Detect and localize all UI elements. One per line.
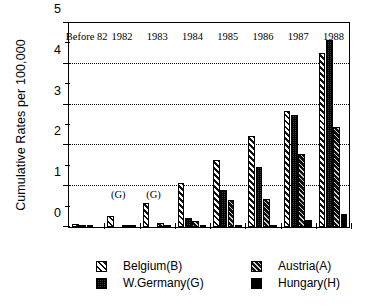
y-tick-label-4: 4 (54, 43, 61, 57)
y-tick-label-5: 5 (54, 2, 61, 16)
y-tick-label-0: 0 (54, 206, 61, 220)
bar-austria-1982 (122, 225, 129, 227)
x-tick-0 (104, 223, 105, 229)
annotation-missing-wgermany-1982: (G) (111, 189, 126, 200)
y-tick-0 (63, 226, 70, 227)
legend-swatch-austria (251, 261, 262, 272)
legend-label-hungary: Hungary(H) (278, 276, 348, 290)
chart-figure: Cumulative Rates per 100,000 012345 Befo… (0, 0, 380, 308)
annotation-missing-wgermany-1983: (G) (146, 189, 161, 200)
legend-swatch-hungary (251, 278, 262, 289)
bar-austria-1987 (298, 154, 305, 227)
y-axis-title: Cumulative Rates per 100,000 (14, 20, 28, 230)
legend-swatch-belgium (96, 261, 107, 272)
y-tick-1 (63, 185, 70, 186)
x-tick-label-before-82: Before 82 (66, 31, 108, 42)
y-tick-3 (63, 104, 70, 105)
bar-austria-1984 (192, 221, 199, 227)
bar-austria-1983 (157, 223, 164, 227)
bar-wgermany-1986 (256, 167, 263, 227)
bar-wgermany-1984 (185, 218, 192, 227)
bar-belgium-1984 (178, 183, 185, 227)
legend-label-austria: Austria(A) (278, 259, 348, 273)
legend-label-wgermany: W.Germany(G) (123, 276, 243, 290)
bar-belgium-1982 (107, 216, 114, 227)
bar-wgermany-1988 (326, 40, 333, 227)
bar-belgium-1986 (248, 136, 255, 227)
bar-wgermany-before-82 (79, 225, 86, 227)
bar-hungary-1983 (164, 225, 171, 227)
bar-austria-before-82 (87, 225, 94, 227)
x-tick-label-1987: 1987 (288, 31, 309, 42)
gridline-y-3 (69, 104, 349, 105)
x-tick-label-1982: 1982 (111, 31, 132, 42)
y-tick-label-1: 1 (54, 165, 61, 179)
gridline-y-2 (69, 144, 349, 145)
x-tick-7 (351, 223, 352, 229)
bar-belgium-1987 (284, 111, 291, 227)
legend: Belgium(B)Austria(A)W.Germany(G)Hungary(… (96, 259, 348, 290)
bar-austria-1988 (333, 127, 340, 227)
y-minor-tick-2.5 (65, 124, 70, 125)
bar-belgium-1985 (213, 160, 220, 227)
x-tick-label-1983: 1983 (147, 31, 168, 42)
x-tick-4 (245, 223, 246, 229)
bar-hungary-1985 (235, 225, 242, 227)
plot-area: 012345 Before 82198219831984198519861987… (68, 22, 350, 228)
bar-hungary-1986 (270, 225, 277, 227)
y-minor-tick-1.5 (65, 165, 70, 166)
y-tick-4 (63, 63, 70, 64)
bar-austria-1985 (228, 200, 235, 227)
bar-belgium-1983 (143, 203, 150, 227)
bar-belgium-before-82 (72, 224, 79, 227)
bar-hungary-1987 (305, 220, 312, 227)
gridline-y-1 (69, 185, 349, 186)
y-minor-tick-0.5 (65, 206, 70, 207)
legend-swatch-wgermany (96, 278, 107, 289)
x-tick-5 (281, 223, 282, 229)
x-tick-6 (316, 223, 317, 229)
x-tick-1 (140, 223, 141, 229)
bar-austria-1986 (263, 199, 270, 227)
x-tick-label-1986: 1986 (252, 31, 273, 42)
x-tick-label-1985: 1985 (217, 31, 238, 42)
y-tick-label-3: 3 (54, 84, 61, 98)
bar-wgermany-1985 (220, 190, 227, 227)
bar-belgium-1988 (319, 53, 326, 227)
bar-hungary-1988 (341, 214, 348, 227)
y-tick-5 (63, 22, 70, 23)
bar-hungary-1984 (200, 225, 207, 227)
y-minor-tick-3.5 (65, 83, 70, 84)
gridline-y-4 (69, 63, 349, 64)
bar-hungary-1982 (129, 225, 136, 227)
legend-label-belgium: Belgium(B) (123, 259, 243, 273)
y-tick-2 (63, 144, 70, 145)
bar-wgermany-1987 (291, 115, 298, 227)
x-tick-2 (175, 223, 176, 229)
y-tick-label-2: 2 (54, 124, 61, 138)
x-tick-label-1984: 1984 (182, 31, 203, 42)
x-tick-3 (210, 223, 211, 229)
y-minor-tick-4.5 (65, 42, 70, 43)
